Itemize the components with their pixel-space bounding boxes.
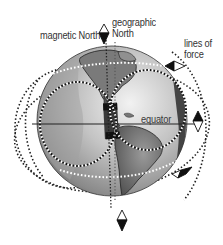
compass-needle-icon: [117, 210, 127, 231]
geographic-north-label-line2: North: [112, 28, 134, 39]
compass-needle-icon: [99, 24, 109, 44]
compass-needle-icon: [172, 167, 192, 178]
compass-needle-icon: [193, 111, 203, 132]
compass-needle-icon: [165, 61, 185, 71]
lines-of-force-label-line2: force: [184, 49, 204, 60]
magnetic-field-diagram: magnetic North geographic North lines of…: [0, 0, 223, 245]
magnetic-north-label: magnetic North: [40, 30, 100, 41]
equator-label: equator: [141, 114, 171, 125]
